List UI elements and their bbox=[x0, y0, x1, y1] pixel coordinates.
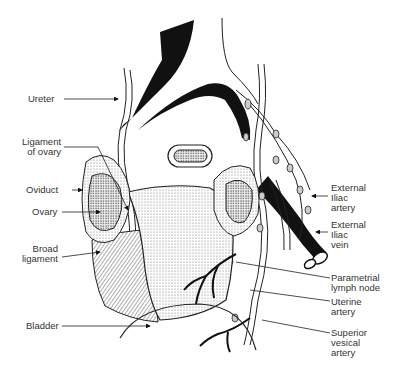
label-bladder: Bladder bbox=[26, 321, 59, 331]
label-text: Ovary bbox=[32, 207, 57, 217]
label-text: Ureter bbox=[28, 94, 54, 104]
label-text: Bladder bbox=[26, 321, 59, 331]
rectum bbox=[168, 145, 212, 167]
label-text: artery bbox=[331, 348, 367, 358]
label-text: of ovary bbox=[22, 147, 61, 157]
label-text: vein bbox=[331, 240, 366, 250]
label-text: lymph node bbox=[331, 283, 380, 293]
label-ovary: Ovary bbox=[32, 207, 57, 217]
label-oviduct: Oviduct bbox=[26, 185, 58, 195]
label-external-iliac-vein: External Iliac vein bbox=[331, 220, 366, 250]
label-uterine-artery: Uterine artery bbox=[331, 297, 362, 317]
label-external-iliac-artery: External Iliac artery bbox=[331, 183, 366, 213]
label-ureter: Ureter bbox=[28, 94, 54, 104]
left-ovary bbox=[88, 174, 122, 231]
label-text: artery bbox=[331, 203, 366, 213]
label-parametrial-lymph-node: Parametrial lymph node bbox=[331, 273, 380, 293]
label-text: Oviduct bbox=[26, 185, 58, 195]
label-ligament-of-ovary: Ligament of ovary bbox=[22, 137, 61, 157]
label-superior-vesical-artery: Superior vesical artery bbox=[331, 328, 367, 358]
right-ovary bbox=[226, 180, 252, 223]
label-text: ligament bbox=[22, 254, 58, 264]
label-text: artery bbox=[331, 307, 362, 317]
label-broad-ligament: Broad ligament bbox=[22, 244, 58, 264]
